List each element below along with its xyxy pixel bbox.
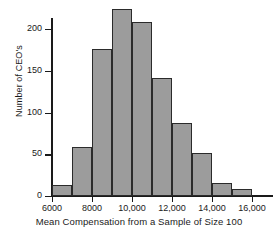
histogram-bar	[152, 78, 172, 196]
histogram-bar	[172, 123, 192, 196]
x-axis-title: Mean Compensation from a Sample of Size …	[0, 216, 278, 227]
y-axis-tick	[45, 154, 51, 155]
y-axis-tick	[45, 71, 51, 72]
x-axis-tick	[92, 196, 93, 202]
y-axis-tick	[45, 196, 51, 197]
x-axis-tick	[252, 196, 253, 202]
x-axis-tick	[212, 196, 213, 202]
y-axis-title: Number of CEO's	[14, 16, 24, 146]
histogram-bar	[112, 9, 132, 196]
x-axis-tick-label: 16,000	[228, 203, 276, 213]
bars-layer	[52, 4, 272, 196]
x-axis-tick	[172, 196, 173, 202]
y-axis-tick-label: 100	[2, 107, 42, 117]
y-axis-tick	[45, 113, 51, 114]
histogram-bar	[92, 49, 112, 196]
x-axis-tick	[132, 196, 133, 202]
y-axis-tick-label: 200	[2, 23, 42, 33]
histogram-bar	[192, 153, 212, 196]
histogram-bar	[212, 183, 232, 196]
histogram-chart: Number of CEO's 050100150200 6000800010,…	[0, 0, 278, 234]
y-axis-tick-label: 50	[2, 148, 42, 158]
histogram-bar	[72, 147, 92, 196]
histogram-bar	[52, 185, 72, 196]
histogram-bar	[132, 22, 152, 196]
plot-area	[52, 4, 272, 196]
x-axis-tick	[52, 196, 53, 202]
y-axis-tick-label: 150	[2, 65, 42, 75]
y-axis-tick	[45, 29, 51, 30]
y-axis-tick-label: 0	[2, 190, 42, 200]
histogram-bar	[232, 189, 252, 196]
